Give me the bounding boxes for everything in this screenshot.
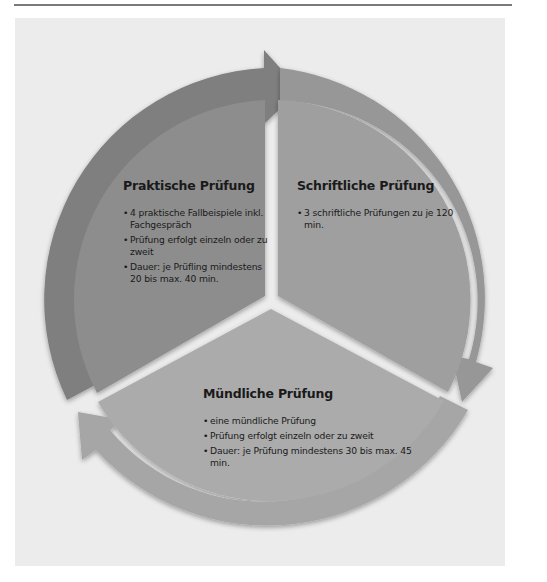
bullet-item: 4 praktische Fallbeispiele inkl. Fachges… [123,207,273,231]
cycle-diagram [0,0,547,582]
bullet-item: Dauer: je Prüfung mindestens 30 bis max.… [203,445,423,469]
bullet-item: Dauer: je Prüfling mindestens 20 bis max… [123,261,273,285]
bullet-item: Prüfung erfolgt einzeln oder zu zweit [203,430,423,442]
bullet-list: 3 schriftliche Prüfungen zu je 120 min. [297,207,457,231]
sector-label-muendlich: Mündliche Prüfung eine mündliche Prüfung… [203,386,423,472]
sector-title: Mündliche Prüfung [203,386,423,401]
bullet-item: 3 schriftliche Prüfungen zu je 120 min. [297,207,457,231]
bullet-list: 4 praktische Fallbeispiele inkl. Fachges… [123,207,273,285]
sector-label-schriftlich: Schriftliche Prüfung 3 schriftliche Prüf… [297,178,457,234]
sector-label-praktisch: Praktische Prüfung 4 praktische Fallbeis… [123,178,273,288]
bullet-item: eine mündliche Prüfung [203,415,423,427]
bullet-item: Prüfung erfolgt einzeln oder zu zweit [123,234,273,258]
bullet-list: eine mündliche Prüfung Prüfung erfolgt e… [203,415,423,469]
sector-title: Praktische Prüfung [123,178,273,193]
sector-title: Schriftliche Prüfung [297,178,457,193]
